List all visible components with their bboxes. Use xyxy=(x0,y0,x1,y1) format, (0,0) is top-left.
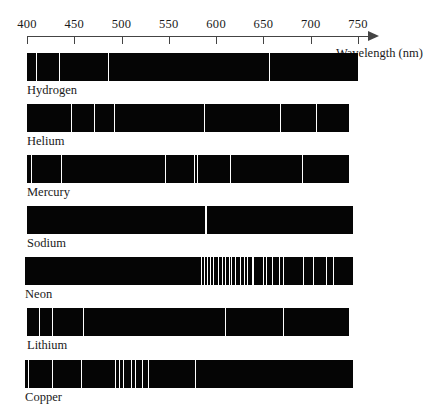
spectrum-row: Helium xyxy=(0,104,432,150)
emission-line xyxy=(31,155,32,183)
emission-line xyxy=(52,360,53,388)
emission-line xyxy=(59,53,60,81)
emission-line xyxy=(39,308,40,336)
emission-line xyxy=(131,360,132,388)
emission-line xyxy=(28,360,29,388)
emission-line xyxy=(142,360,143,388)
axis-tick-label: 500 xyxy=(112,18,132,31)
axis-tick xyxy=(74,36,75,44)
axis-tick xyxy=(169,36,170,44)
right-arrow-icon xyxy=(368,31,379,41)
spectrum-row: Lithium xyxy=(0,308,432,354)
spectrum-band-copper xyxy=(25,360,353,388)
emission-line xyxy=(119,360,120,388)
emission-line xyxy=(263,257,264,285)
emission-line xyxy=(230,155,231,183)
emission-line xyxy=(94,104,95,132)
emission-line xyxy=(222,257,223,285)
emission-line xyxy=(81,360,82,388)
element-label-helium: Helium xyxy=(27,135,65,148)
emission-line xyxy=(269,53,270,81)
emission-line xyxy=(244,257,245,285)
emission-line xyxy=(279,257,280,285)
element-label-lithium: Lithium xyxy=(27,339,67,352)
emission-line xyxy=(283,257,284,285)
emission-line xyxy=(253,257,254,285)
axis-tick-label: 550 xyxy=(159,18,179,31)
emission-line xyxy=(123,360,124,388)
emission-line xyxy=(247,257,248,285)
emission-line xyxy=(231,257,232,285)
emission-line xyxy=(195,360,196,388)
emission-line xyxy=(225,257,226,285)
emission-line xyxy=(303,257,304,285)
axis-tick-label: 700 xyxy=(301,18,321,31)
emission-line xyxy=(313,257,314,285)
axis-tick-label: 650 xyxy=(254,18,274,31)
spectrum-band-helium xyxy=(27,104,349,132)
spectrum-row: Copper xyxy=(0,360,432,406)
axis-tick-label: 400 xyxy=(17,18,37,31)
emission-line xyxy=(252,257,253,285)
emission-line xyxy=(326,257,327,285)
spectrum-band-neon xyxy=(25,257,353,285)
emission-line xyxy=(333,257,334,285)
emission-line xyxy=(52,308,53,336)
axis-line xyxy=(27,36,368,37)
emission-line xyxy=(194,155,195,183)
axis-tick xyxy=(263,36,264,44)
spectrum-band-hydrogen xyxy=(27,53,358,81)
emission-line xyxy=(316,104,317,132)
emission-line xyxy=(280,104,281,132)
emission-line xyxy=(204,104,205,132)
emission-line xyxy=(165,155,166,183)
axis-tick xyxy=(122,36,123,44)
emission-line xyxy=(201,257,202,285)
axis-tick xyxy=(27,36,28,44)
emission-line xyxy=(148,360,149,388)
spectrum-band-mercury xyxy=(27,155,349,183)
spectrum-row: Mercury xyxy=(0,155,432,201)
emission-line xyxy=(197,155,198,183)
emission-line xyxy=(204,257,205,285)
emission-line xyxy=(302,155,303,183)
emission-line xyxy=(71,104,72,132)
element-label-sodium: Sodium xyxy=(27,237,66,250)
axis-tick xyxy=(311,36,312,44)
emission-line xyxy=(206,206,207,234)
spectrum-band-lithium xyxy=(27,308,349,336)
wavelength-axis: 400450500550600650700750 Wavelength (nm) xyxy=(0,0,432,50)
emission-line xyxy=(225,308,226,336)
element-label-mercury: Mercury xyxy=(27,186,70,199)
element-label-copper: Copper xyxy=(25,391,62,404)
emission-line xyxy=(240,257,241,285)
emission-line xyxy=(108,53,109,81)
emission-line xyxy=(115,360,116,388)
spectra-figure: 400450500550600650700750 Wavelength (nm)… xyxy=(0,0,432,415)
emission-line xyxy=(213,257,214,285)
element-label-hydrogen: Hydrogen xyxy=(27,84,77,97)
emission-line xyxy=(83,308,84,336)
emission-line xyxy=(235,257,236,285)
emission-line xyxy=(283,308,284,336)
emission-line xyxy=(218,257,219,285)
emission-line xyxy=(36,53,37,81)
emission-line xyxy=(135,360,136,388)
axis-tick xyxy=(358,36,359,44)
element-label-neon: Neon xyxy=(25,288,52,301)
axis-tick-label: 450 xyxy=(64,18,84,31)
spectrum-row: Sodium xyxy=(0,206,432,252)
emission-line xyxy=(207,257,208,285)
axis-tick-label: 600 xyxy=(206,18,226,31)
axis-tick-label: 750 xyxy=(348,18,368,31)
spectrum-row: Neon xyxy=(0,257,432,303)
spectrum-row: Hydrogen xyxy=(0,53,432,99)
axis-tick xyxy=(216,36,217,44)
emission-line xyxy=(210,257,211,285)
emission-line xyxy=(266,257,267,285)
spectrum-band-sodium xyxy=(27,206,353,234)
emission-line xyxy=(61,155,62,183)
emission-line xyxy=(114,104,115,132)
emission-line xyxy=(272,257,273,285)
emission-line xyxy=(229,257,230,285)
